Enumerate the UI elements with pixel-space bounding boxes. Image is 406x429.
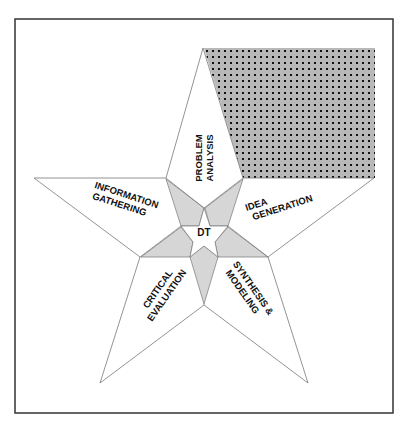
design-thinking-diagram: DT PROBLEM ANALYSIS INFORMATION GATHERIN… (0, 0, 406, 429)
arm-label-line1: PROBLEM (193, 134, 204, 182)
arm-label-line2: ANALYSIS (204, 134, 215, 181)
center-label: DT (197, 227, 210, 238)
arm-label-problem-analysis: PROBLEM ANALYSIS (193, 134, 215, 182)
